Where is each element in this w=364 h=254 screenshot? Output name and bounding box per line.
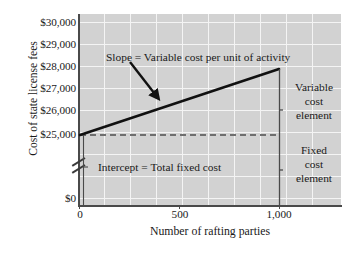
variable-cost-line-2: cost	[283, 94, 345, 108]
x-tick-label: 500	[150, 208, 210, 220]
variable-cost-element-label: Variable cost element	[283, 80, 345, 122]
fixed-cost-line-1: Fixed	[283, 143, 345, 157]
fixed-cost-element-label: Fixed cost element	[283, 143, 345, 185]
cost-behavior-chart: $30,000 $29,000 $28,000 $27,000 $26,000 …	[0, 0, 364, 254]
variable-cost-line-1: Variable	[283, 80, 345, 94]
gridline-horizontal	[78, 44, 341, 45]
x-tick-label: 0	[50, 208, 110, 220]
fixed-cost-line-3: element	[283, 171, 345, 185]
gridline-horizontal	[78, 66, 341, 67]
intercept-annotation: Intercept = Total fixed cost	[98, 161, 221, 173]
gridline-horizontal	[78, 132, 341, 133]
y-tick-label: $0	[0, 192, 76, 204]
x-tick-label: 1,000	[249, 208, 309, 220]
y-axis-line	[78, 14, 80, 206]
gridline-horizontal	[78, 22, 341, 23]
slope-annotation: Slope = Variable cost per unit of activi…	[106, 51, 290, 63]
y-axis-break-icon	[70, 155, 88, 177]
fixed-cost-line-2: cost	[283, 157, 345, 171]
variable-cost-line-3: element	[283, 108, 345, 122]
x-axis-title: Number of rafting parties	[78, 224, 342, 239]
gridline-horizontal	[78, 198, 341, 199]
x-axis-line	[78, 205, 342, 207]
y-axis-title: Cost of state license fees	[27, 4, 40, 194]
